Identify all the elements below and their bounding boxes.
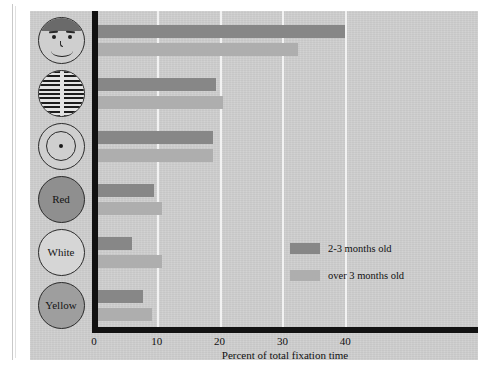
category-icon-red: Red xyxy=(34,173,88,225)
bar-stripes-older xyxy=(94,96,223,109)
x-tick-label-0: 0 xyxy=(91,335,97,347)
x-tick-label-10: 10 xyxy=(151,335,162,347)
category-icon-column: Red White Yellow xyxy=(30,11,92,341)
chart-panel: Red White Yellow 010203040 Percent of to… xyxy=(30,11,478,360)
bar-face-older xyxy=(94,43,298,56)
bar-White-older xyxy=(94,255,162,268)
face-eyebrow-left-icon xyxy=(48,30,57,33)
category-label-white: White xyxy=(48,246,75,258)
y-axis-line xyxy=(92,11,98,333)
gridline-20 xyxy=(220,11,222,327)
plot-area: 010203040 Percent of total fixation time… xyxy=(92,11,478,345)
legend-item-young: 2-3 months old xyxy=(290,239,404,257)
category-icon-bullseye xyxy=(34,120,88,172)
bar-Yellow-young xyxy=(94,290,143,303)
x-axis-line xyxy=(92,327,478,333)
bar-Red-older xyxy=(94,202,162,215)
category-icon-face xyxy=(34,14,88,66)
legend-item-older: over 3 months old xyxy=(290,266,404,284)
face-eye-left-icon xyxy=(52,35,56,39)
bar-stripes-young xyxy=(94,78,216,91)
bar-face-young xyxy=(94,25,345,38)
bar-Yellow-older xyxy=(94,308,152,321)
chart-legend: 2-3 months old over 3 months old xyxy=(290,239,404,293)
legend-swatch-older xyxy=(290,270,320,281)
page-edge-line-secondary xyxy=(15,6,16,358)
bullseye-center-dot-icon xyxy=(59,144,63,148)
category-icon-stripes xyxy=(34,67,88,119)
face-smile-icon xyxy=(51,45,73,57)
category-icon-yellow: Yellow xyxy=(34,279,88,331)
category-icon-white: White xyxy=(34,226,88,278)
x-tick-label-40: 40 xyxy=(340,335,351,347)
category-label-yellow: Yellow xyxy=(45,299,76,311)
face-eyebrow-right-icon xyxy=(65,30,74,33)
bar-bullseye-young xyxy=(94,131,213,144)
gridline-30 xyxy=(282,11,284,327)
bar-bullseye-older xyxy=(94,149,213,162)
x-tick-label-30: 30 xyxy=(277,335,288,347)
legend-label-young: 2-3 months old xyxy=(328,243,392,254)
face-hair-icon xyxy=(38,17,85,31)
face-eye-right-icon xyxy=(68,35,72,39)
gridline-10 xyxy=(157,11,159,327)
category-label-red: Red xyxy=(52,193,70,205)
x-tick-label-20: 20 xyxy=(214,335,225,347)
bar-White-young xyxy=(94,237,132,250)
x-axis-label: Percent of total fixation time xyxy=(92,349,478,361)
legend-swatch-young xyxy=(290,243,320,254)
bar-Red-young xyxy=(94,184,154,197)
page-edge-line xyxy=(12,4,13,360)
legend-label-older: over 3 months old xyxy=(328,270,404,281)
stripes-center-gap-icon xyxy=(60,71,64,116)
